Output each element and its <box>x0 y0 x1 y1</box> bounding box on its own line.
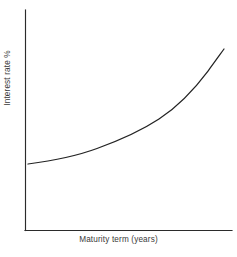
y-axis-label-container: Interest rate % <box>4 28 16 128</box>
plot-area <box>0 0 237 257</box>
x-axis-label: Maturity term (years) <box>0 236 237 244</box>
chart-figure: Interest rate % Maturity term (years) <box>0 0 237 257</box>
yield-curve-line <box>28 49 224 164</box>
y-axis-label: Interest rate % <box>4 28 12 128</box>
